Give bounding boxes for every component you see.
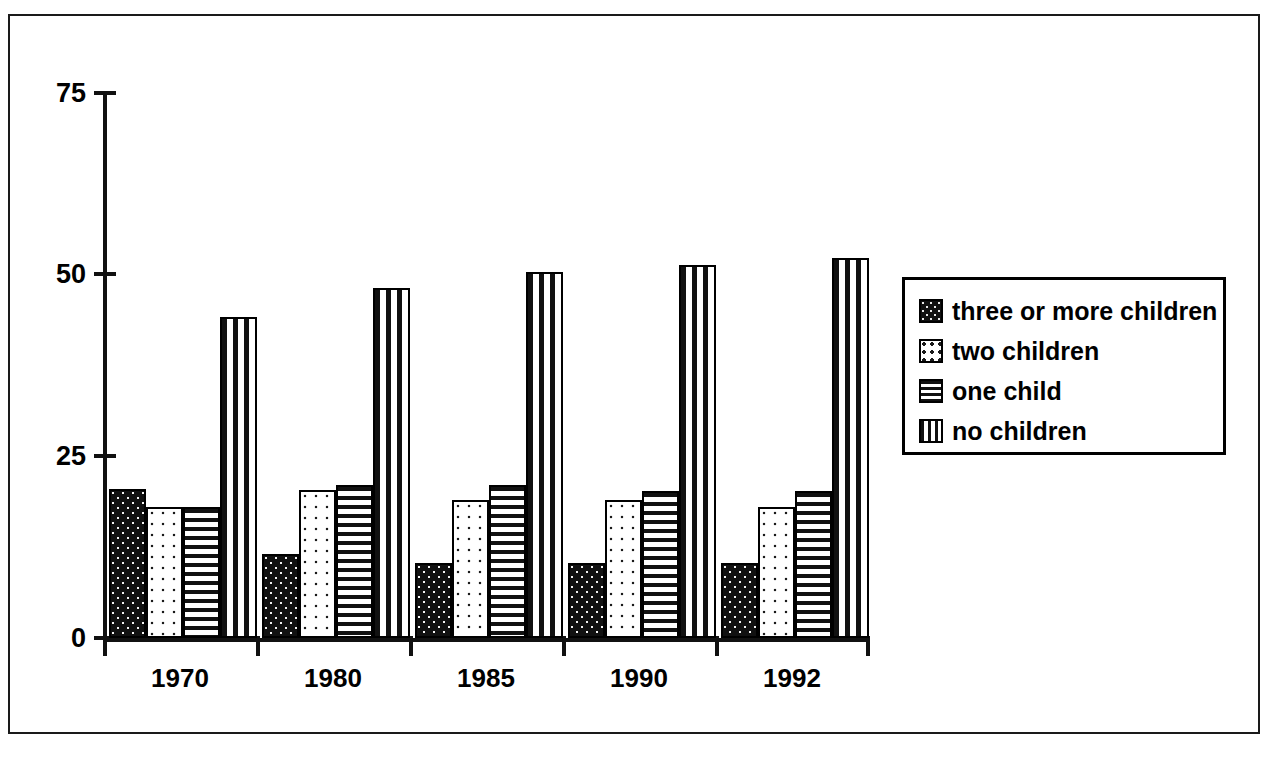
legend-label-one-child: one child [952, 379, 1062, 404]
bar-1980-three-or-more-children [262, 554, 299, 638]
legend-swatch-icon-no-children [919, 419, 943, 443]
legend-item-one-child[interactable]: one child [919, 372, 1213, 410]
y-axis-line [103, 91, 107, 642]
bar-1980-one-child [336, 485, 373, 638]
legend-swatch-icon-two-children [919, 339, 943, 363]
y-tick-label-25: 25 [26, 441, 86, 472]
x-tick-1 [256, 636, 260, 656]
x-tick-3 [562, 636, 566, 656]
x-tick-5 [866, 636, 870, 656]
y-tick-label-0: 0 [26, 623, 86, 654]
bar-1992-three-or-more-children [721, 563, 758, 638]
chart-figure: 75 50 25 0 1970 1980 1985 1990 1992 thre… [0, 0, 1270, 762]
x-axis-label-1970: 1970 [105, 663, 255, 694]
legend-label-three-or-more-children: three or more children [952, 299, 1217, 324]
x-axis-label-1992: 1992 [717, 663, 867, 694]
x-axis-label-1985: 1985 [411, 663, 561, 694]
y-tick-50 [94, 272, 116, 276]
bar-1985-one-child [489, 485, 526, 638]
bar-1992-no-children [832, 258, 869, 638]
bar-1970-two-children [146, 507, 183, 638]
bar-1992-one-child [795, 491, 832, 638]
legend-label-two-children: two children [952, 339, 1099, 364]
y-tick-75 [94, 91, 116, 95]
x-tick-0 [103, 636, 107, 656]
bar-1970-no-children [220, 317, 257, 638]
legend-label-no-children: no children [952, 419, 1087, 444]
bar-1990-three-or-more-children [568, 563, 605, 638]
legend-item-no-children[interactable]: no children [919, 412, 1213, 450]
x-tick-4 [715, 636, 719, 656]
legend-item-three-or-more-children[interactable]: three or more children [919, 292, 1213, 330]
bar-1985-three-or-more-children [415, 563, 452, 638]
x-axis-label-1980: 1980 [258, 663, 408, 694]
y-tick-label-75: 75 [26, 78, 86, 109]
bar-1985-no-children [526, 272, 563, 638]
y-tick-label-50: 50 [26, 259, 86, 290]
bar-1990-two-children [605, 500, 642, 638]
legend-swatch-icon-three-or-more-children [919, 299, 943, 323]
bar-1990-one-child [642, 491, 679, 638]
y-tick-25 [94, 454, 116, 458]
bar-1980-two-children [299, 490, 336, 638]
legend-swatch-icon-one-child [919, 379, 943, 403]
x-axis-line [103, 638, 869, 642]
x-axis-label-1990: 1990 [564, 663, 714, 694]
x-tick-2 [409, 636, 413, 656]
bar-1990-no-children [679, 265, 716, 638]
bar-1980-no-children [373, 288, 410, 638]
bar-1970-three-or-more-children [109, 489, 146, 638]
legend-item-two-children[interactable]: two children [919, 332, 1213, 370]
bar-1970-one-child [183, 507, 220, 638]
chart-legend: three or more children two children one … [902, 277, 1226, 455]
bar-1985-two-children [452, 500, 489, 638]
bar-1992-two-children [758, 507, 795, 638]
